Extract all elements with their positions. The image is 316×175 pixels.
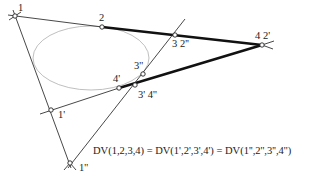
label-4-2prime: 4 2' bbox=[255, 30, 270, 41]
label-1prime: 1' bbox=[58, 109, 65, 120]
label-3prime-4doubleprime: 3' 4'' bbox=[138, 89, 157, 100]
label-3-2doubleprime: 3 2'' bbox=[172, 38, 189, 49]
conic-ellipse bbox=[33, 26, 149, 90]
point-3doubleprime bbox=[141, 72, 145, 76]
point-4prime bbox=[117, 86, 121, 90]
point-1prime bbox=[49, 108, 53, 112]
cross-ratio-diagram: 1 2 3 2'' 4 2' 3'' 4' 3' 4'' 1' 1'' DV(1… bbox=[0, 0, 316, 175]
label-4prime: 4' bbox=[113, 73, 120, 84]
point-3 bbox=[173, 33, 177, 37]
point-3prime bbox=[133, 83, 137, 87]
point-4 bbox=[260, 43, 264, 47]
point-2 bbox=[100, 25, 104, 29]
label-3doubleprime: 3'' bbox=[134, 60, 143, 71]
point-1 bbox=[13, 14, 17, 18]
label-1: 1 bbox=[18, 2, 23, 13]
line-1-2 bbox=[8, 15, 102, 27]
label-1doubleprime: 1'' bbox=[79, 162, 88, 173]
line-1-1doubleprime bbox=[13, 10, 71, 168]
label-2: 2 bbox=[99, 12, 104, 23]
cross-ratio-formula: DV(1,2,3,4) = DV(1',2',3',4') = DV(1'',2… bbox=[93, 145, 292, 157]
point-1doubleprime bbox=[68, 161, 72, 165]
